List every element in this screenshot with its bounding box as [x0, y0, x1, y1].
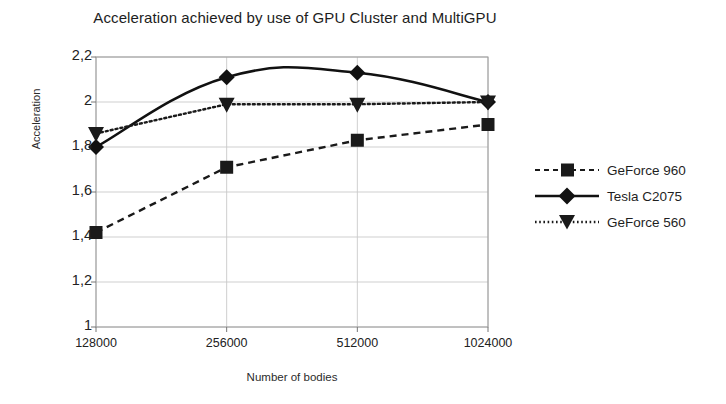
- x-tick-label: 256000: [167, 336, 287, 350]
- data-point-marker-square: [351, 134, 364, 147]
- data-point-marker-square: [482, 118, 495, 131]
- series-line-geforce-960: [96, 125, 488, 233]
- x-axis-title: Number of bodies: [96, 371, 488, 383]
- chart-legend: GeForce 960 Tesla C2075 GeForce 560: [533, 157, 718, 235]
- x-tick-label: 1024000: [428, 336, 548, 350]
- legend-swatch-dashed-square-icon: [533, 161, 601, 179]
- y-axis-title: Acceleration: [30, 64, 46, 174]
- data-point-marker-diamond: [349, 65, 365, 81]
- legend-label: GeForce 960: [601, 163, 686, 178]
- y-tick-label: 2,2: [58, 47, 92, 63]
- y-tick-label: 1,2: [58, 272, 92, 288]
- y-tick-label: 1,4: [58, 227, 92, 243]
- y-tick-label: 2: [58, 92, 92, 108]
- legend-swatch-dotted-triangle-icon: [533, 213, 601, 231]
- legend-swatch-solid-diamond-icon: [533, 187, 601, 205]
- data-point-marker-square: [220, 161, 233, 174]
- y-tick-label: 1,6: [58, 182, 92, 198]
- chart-figure: Acceleration achieved by use of GPU Clus…: [0, 0, 726, 404]
- legend-label: Tesla C2075: [601, 189, 682, 204]
- series-line-geforce-560: [96, 102, 488, 134]
- x-tick-label: 128000: [36, 336, 156, 350]
- legend-item-tesla-c2075[interactable]: Tesla C2075: [533, 183, 718, 209]
- y-tick-label: 1: [58, 317, 92, 333]
- data-point-marker-diamond: [219, 69, 235, 85]
- series-line-tesla-c2075: [96, 67, 488, 147]
- legend-label: GeForce 560: [601, 215, 686, 230]
- y-tick-label: 1,8: [58, 137, 92, 153]
- x-tick-label: 512000: [297, 336, 417, 350]
- legend-item-geforce-560[interactable]: GeForce 560: [533, 209, 718, 235]
- legend-item-geforce-960[interactable]: GeForce 960: [533, 157, 718, 183]
